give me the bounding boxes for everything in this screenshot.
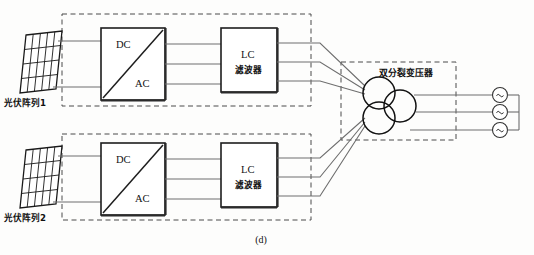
- schematic-svg: 光伏阵列1 DC AC LC 滤波器: [0, 0, 534, 255]
- wire-lc1-xfmr-a: [277, 43, 365, 86]
- lc-filter-1-label-line2: 滤波器: [235, 64, 262, 75]
- transformer-windings: [363, 77, 416, 134]
- pv-array-2-label: 光伏阵列2: [3, 212, 46, 223]
- lc-filter-1-label-line1: LC: [241, 49, 254, 60]
- inverter-1-dc-label: DC: [116, 39, 131, 50]
- inverter-1: [101, 28, 166, 101]
- wire-lc2-xfmr-c: [277, 126, 365, 196]
- pv-array-2-symbol: [20, 146, 62, 208]
- lc-filter-2: [221, 143, 278, 208]
- figure-caption: (d): [255, 234, 267, 246]
- figure-root: 光伏阵列1 DC AC LC 滤波器: [0, 0, 534, 255]
- inverter-1-ac-label: AC: [135, 78, 150, 89]
- lc-filter-2-label-line1: LC: [241, 164, 254, 175]
- wire-lc1-xfmr-b: [277, 62, 365, 90]
- inverter-2-ac-label: AC: [135, 193, 150, 204]
- pv-array-1-label: 光伏阵列1: [3, 97, 46, 108]
- wire-lc1-xfmr-c: [277, 81, 365, 94]
- grid-source-a: [493, 88, 508, 103]
- lc-filter-1: [221, 28, 278, 93]
- grid-source-c: [493, 123, 508, 138]
- transformer-label: 双分裂变压器: [379, 67, 433, 78]
- inverter-2: [101, 143, 166, 216]
- grid-source-b: [493, 105, 508, 120]
- lc-filter-2-label-line2: 滤波器: [235, 179, 262, 190]
- pv-array-1-symbol: [20, 31, 62, 93]
- inverter-2-dc-label: DC: [116, 154, 131, 165]
